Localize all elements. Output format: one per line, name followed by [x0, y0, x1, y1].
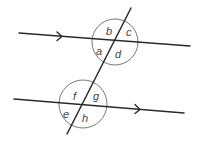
angle-label-d: d — [115, 48, 122, 60]
angle-label-b: b — [106, 25, 112, 37]
upper-parallel-line — [19, 33, 190, 46]
parallel-lines-diagram: b c a d f g e h — [0, 0, 202, 141]
angle-label-g: g — [93, 90, 100, 102]
transversal-line — [67, 8, 131, 134]
angle-label-a: a — [96, 45, 102, 57]
angle-label-e: e — [63, 108, 69, 120]
angle-label-h: h — [82, 112, 88, 124]
angle-label-c: c — [126, 26, 132, 38]
angle-label-f: f — [73, 90, 77, 102]
